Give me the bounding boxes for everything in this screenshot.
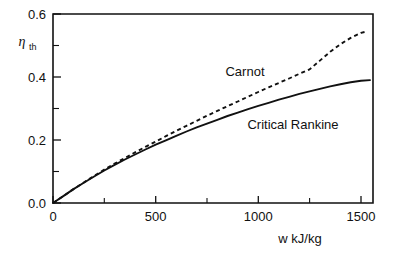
x-axis-tick-labels: 0 500 1000 1500: [49, 209, 375, 224]
x-tick-label-2: 1000: [244, 209, 273, 224]
y-axis-title: η th: [19, 34, 37, 52]
y-tick-label-1: 0.2: [28, 133, 46, 148]
y-axis-minor-ticks: [53, 46, 59, 172]
x-tick-label-0: 0: [49, 209, 56, 224]
y-axis-title-subscript: th: [29, 42, 37, 52]
y-tick-label-3: 0.6: [28, 7, 46, 22]
series-critical-rankine-line: [53, 80, 370, 203]
series-label-critical-rankine: Critical Rankine: [247, 117, 338, 132]
chart-figure: 0.0 0.2 0.4 0.6 0 500 1000 1500 η th w k…: [0, 0, 395, 253]
y-axis-title-symbol: η: [19, 34, 26, 49]
x-axis-title: w kJ/kg: [277, 231, 321, 246]
plot-frame: [53, 14, 373, 203]
x-tick-label-3: 1500: [347, 209, 376, 224]
y-tick-label-2: 0.4: [28, 70, 46, 85]
y-axis-tick-labels: 0.0 0.2 0.4 0.6: [28, 7, 46, 211]
series-label-carnot: Carnot: [225, 64, 264, 79]
thermal-efficiency-chart: 0.0 0.2 0.4 0.6 0 500 1000 1500 η th w k…: [0, 0, 395, 253]
x-tick-label-1: 500: [145, 209, 167, 224]
y-tick-label-0: 0.0: [28, 196, 46, 211]
